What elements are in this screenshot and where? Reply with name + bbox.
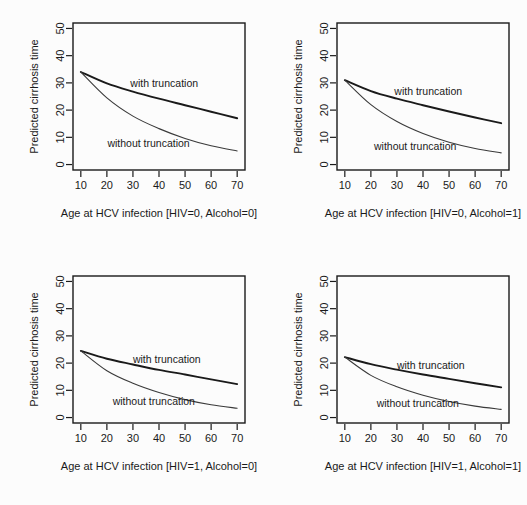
curve-annotation: with truncation (393, 85, 462, 97)
chart-panel: 1020304050607001020304050Predicted cirrh… (0, 253, 263, 505)
x-tick-label: 30 (127, 432, 139, 444)
x-tick-label: 40 (153, 179, 165, 191)
chart-panel: 1020304050607001020304050Predicted cirrh… (0, 0, 263, 252)
y-tick-label: 0 (54, 161, 66, 167)
x-tick-label: 60 (205, 179, 217, 191)
y-tick-label: 30 (54, 77, 66, 89)
x-tick-label: 40 (417, 432, 429, 444)
x-tick-label: 10 (339, 179, 351, 191)
y-tick-label: 20 (318, 104, 330, 116)
y-tick-label: 10 (54, 131, 66, 143)
y-axis-title: Predicted cirrhosis time (292, 39, 304, 153)
x-tick-label: 60 (469, 432, 481, 444)
x-tick-label: 70 (495, 432, 507, 444)
y-tick-label: 40 (318, 50, 330, 62)
y-tick-label: 0 (54, 414, 66, 420)
y-tick-label: 0 (318, 414, 330, 420)
x-tick-label: 30 (391, 432, 403, 444)
x-tick-label: 30 (127, 179, 139, 191)
x-tick-label: 70 (231, 179, 243, 191)
y-axis-title: Predicted cirrhosis time (292, 292, 304, 406)
y-tick-label: 50 (54, 22, 66, 34)
chart-panel: 1020304050607001020304050Predicted cirrh… (264, 253, 527, 505)
curve-annotation: without truncation (106, 137, 189, 149)
figure-panel-grid: 1020304050607001020304050Predicted cirrh… (0, 0, 527, 505)
y-tick-label: 30 (318, 77, 330, 89)
x-axis-title: Age at HCV infection [HIV=0, Alcohol=1] (325, 207, 521, 219)
curve-annotation: without truncation (376, 397, 459, 409)
x-tick-label: 10 (339, 432, 351, 444)
y-tick-label: 20 (318, 357, 330, 369)
y-tick-label: 20 (54, 104, 66, 116)
x-tick-label: 50 (179, 179, 191, 191)
x-tick-label: 40 (153, 432, 165, 444)
y-axis-title: Predicted cirrhosis time (28, 292, 40, 406)
x-tick-label: 50 (443, 432, 455, 444)
curve-annotation: without truncation (112, 395, 195, 407)
y-tick-label: 0 (318, 161, 330, 167)
x-tick-label: 20 (101, 179, 113, 191)
x-tick-label: 60 (469, 179, 481, 191)
x-tick-label: 10 (75, 432, 87, 444)
x-tick-label: 40 (417, 179, 429, 191)
x-tick-label: 30 (391, 179, 403, 191)
y-tick-label: 40 (318, 303, 330, 315)
y-axis-title: Predicted cirrhosis time (28, 39, 40, 153)
curve-annotation: with truncation (396, 359, 465, 371)
curve-annotation: with truncation (132, 353, 201, 365)
y-tick-label: 40 (54, 50, 66, 62)
y-tick-label: 30 (318, 330, 330, 342)
x-tick-label: 60 (205, 432, 217, 444)
curve-annotation: without truncation (373, 140, 456, 152)
x-tick-label: 20 (101, 432, 113, 444)
x-axis-title: Age at HCV infection [HIV=1, Alcohol=1] (325, 460, 521, 472)
y-tick-label: 20 (54, 357, 66, 369)
y-tick-label: 40 (54, 303, 66, 315)
chart-panel: 1020304050607001020304050Predicted cirrh… (264, 0, 527, 252)
y-tick-label: 10 (54, 384, 66, 396)
y-tick-label: 10 (318, 384, 330, 396)
y-tick-label: 10 (318, 131, 330, 143)
x-axis-title: Age at HCV infection [HIV=0, Alcohol=0] (61, 207, 257, 219)
y-tick-label: 50 (318, 22, 330, 34)
x-tick-label: 50 (179, 432, 191, 444)
y-tick-label: 50 (318, 275, 330, 287)
x-tick-label: 20 (365, 432, 377, 444)
curve-annotation: with truncation (129, 77, 198, 89)
y-tick-label: 50 (54, 275, 66, 287)
x-axis-title: Age at HCV infection [HIV=1, Alcohol=0] (61, 460, 257, 472)
x-tick-label: 70 (231, 432, 243, 444)
x-tick-label: 10 (75, 179, 87, 191)
x-tick-label: 20 (365, 179, 377, 191)
y-tick-label: 30 (54, 330, 66, 342)
x-tick-label: 70 (495, 179, 507, 191)
x-tick-label: 50 (443, 179, 455, 191)
